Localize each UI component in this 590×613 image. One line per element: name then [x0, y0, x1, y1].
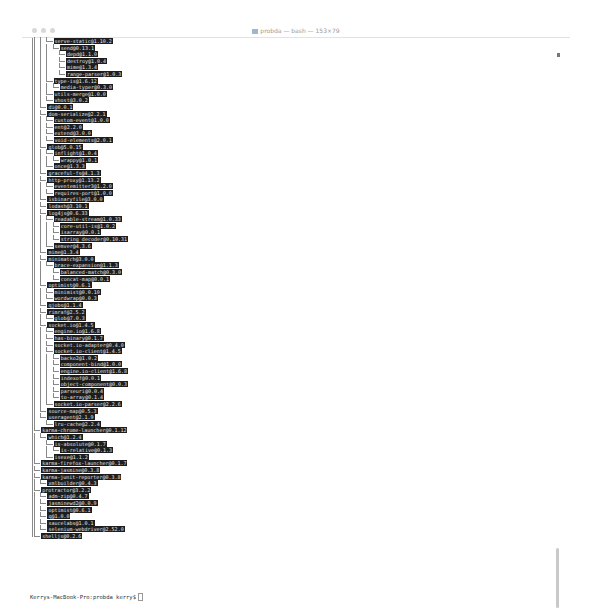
package-entry: readable-stream@1.0.33	[54, 216, 122, 222]
tree-branch-line	[40, 116, 41, 146]
tree-branch-line	[46, 265, 52, 266]
tree-branch-line	[40, 180, 46, 181]
package-entry: indexof@0.0.1	[60, 375, 101, 381]
tree-branch-line	[40, 149, 41, 173]
package-entry: ent@2.2.0	[54, 124, 83, 130]
tree-branch-line	[59, 74, 65, 75]
tree-branch-line	[40, 288, 41, 305]
package-entry: semver@4.3.6	[54, 243, 92, 249]
tree-branch-line	[46, 318, 52, 319]
package-entry: xmlbuilder@0.4.3	[47, 480, 97, 486]
text-cursor	[138, 593, 143, 601]
tree-branch-line	[40, 37, 41, 107]
package-entry: http-proxy@1.13.2	[47, 177, 100, 183]
package-entry: core-util-is@1.0.2	[60, 223, 116, 229]
tree-branch-line	[34, 463, 40, 464]
tree-branch-line	[53, 48, 59, 49]
package-entry: string_decoder@0.10.31	[60, 236, 128, 242]
tree-branch-line	[40, 483, 46, 484]
tree-branch-line	[40, 215, 41, 252]
shell-prompt[interactable]: Kerrys-MacBook-Pro:probda kerry$	[30, 593, 143, 601]
package-entry: adm-zip@0.4.7	[47, 493, 88, 499]
vertical-scrollbar[interactable]	[556, 548, 559, 608]
package-entry: di@0.0.1	[47, 104, 73, 110]
tree-branch-line	[46, 298, 52, 299]
scroll-marker	[557, 53, 560, 57]
tree-branch-line	[46, 444, 52, 445]
package-entry: minimatch@3.0.0	[47, 256, 94, 262]
tree-branch-line	[40, 206, 46, 207]
tree-branch-line	[40, 496, 46, 497]
tree-branch-line	[40, 516, 46, 517]
package-entry: destroy@1.0.4	[66, 58, 107, 64]
tree-branch-line	[40, 503, 46, 504]
tree-branch-line	[34, 490, 40, 491]
package-entry: lodash@3.10.1	[47, 203, 88, 209]
tree-branch-line	[34, 470, 40, 471]
package-entry: is-absolute@0.1.7	[54, 441, 107, 447]
tree-branch-line	[40, 261, 41, 285]
tree-branch-line	[59, 67, 65, 68]
tree-branch-line	[46, 424, 52, 425]
tree-branch-line	[34, 479, 35, 490]
package-entry: protractor@3.2.2	[41, 487, 91, 493]
tree-branch-line	[40, 213, 46, 214]
package-entry: source-map@0.5.3	[47, 408, 97, 414]
tree-branch-line	[34, 536, 40, 537]
package-entry: once@1.3.3	[54, 163, 86, 169]
package-entry: has-binary@0.1.7	[54, 335, 104, 341]
tree-branch-line	[40, 173, 46, 174]
package-entry: serve-static@1.10.2	[54, 38, 113, 44]
tree-branch-line	[46, 331, 52, 332]
tree-branch-line	[46, 94, 52, 95]
tree-branch-line	[53, 87, 59, 88]
package-entry: socket.io-adapter@0.4.0	[54, 342, 125, 348]
tree-branch-line	[40, 312, 46, 313]
package-entry: mime@1.3.4	[47, 249, 79, 255]
package-entry: shelljs@0.2.6	[41, 533, 82, 539]
package-entry: to-array@0.1.4	[60, 394, 104, 400]
package-entry: media-typer@0.3.0	[60, 84, 113, 90]
tree-branch-line	[34, 433, 35, 463]
tree-branch-line	[40, 199, 46, 200]
tree-branch-line	[46, 140, 52, 141]
tree-branch-line	[53, 378, 59, 379]
tree-branch-line	[46, 338, 52, 339]
package-entry: wrappy@1.0.1	[60, 157, 98, 163]
terminal-output[interactable]: Kerrys-MacBook-Pro:probda kerry$ serve-s…	[22, 38, 562, 598]
folder-icon	[252, 29, 258, 34]
tree-branch-line	[46, 83, 47, 94]
package-entry: karma-firefox-launcher@0.1.7	[41, 460, 127, 466]
tree-branch-line	[46, 81, 52, 82]
tree-branch-line	[46, 186, 52, 187]
tree-branch-line	[46, 133, 52, 134]
package-entry: glob@5.0.15	[47, 144, 82, 150]
package-entry: depd@1.1.0	[66, 51, 98, 57]
tree-branch-line	[53, 384, 59, 385]
tree-branch-line	[46, 457, 52, 458]
tree-branch-line	[40, 529, 46, 530]
tree-branch-line	[46, 446, 47, 457]
tree-guide-line	[32, 38, 33, 537]
tree-branch-line	[53, 450, 59, 451]
tree-branch-line	[46, 345, 52, 346]
tree-branch-line	[46, 354, 47, 404]
tree-branch-line	[40, 182, 41, 199]
tree-branch-line	[53, 279, 59, 280]
tree-branch-line	[40, 417, 46, 418]
package-entry: q@1.0.0	[47, 513, 70, 519]
package-entry: qjobs@1.1.4	[47, 302, 82, 308]
tree-branch-line	[40, 305, 46, 306]
window-title: probda — bash — 153×79	[22, 27, 570, 35]
package-entry: socket.io@1.4.5	[47, 322, 94, 328]
tree-branch-line	[40, 437, 46, 438]
package-entry: minimist@0.0.10	[54, 289, 101, 295]
tree-branch-line	[53, 272, 59, 273]
tree-branch-line	[46, 153, 52, 154]
package-entry: useragent@2.1.9	[47, 414, 94, 420]
package-entry: log4js@0.6.33	[47, 210, 88, 216]
tree-branch-line	[46, 292, 52, 293]
tree-branch-line	[46, 193, 52, 194]
package-entry: custom-event@1.0.0	[54, 117, 110, 123]
tree-branch-line	[40, 259, 46, 260]
